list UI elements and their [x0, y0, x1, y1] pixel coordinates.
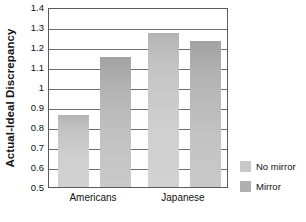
- legend-item: Mirror: [240, 178, 304, 194]
- bar: [148, 33, 179, 187]
- legend-swatch-icon: [240, 181, 251, 192]
- y-axis-tick-label: 0.5: [31, 183, 44, 193]
- y-axis-tick-label: 0.9: [31, 103, 44, 113]
- y-axis-tick-label: 0.7: [31, 143, 44, 153]
- legend-swatch-icon: [240, 161, 251, 172]
- legend-label: No mirror: [256, 161, 296, 172]
- bar: [58, 115, 89, 187]
- x-axis-category-labels: AmericansJapanese: [48, 192, 228, 212]
- x-axis-category-label: Americans: [69, 192, 116, 204]
- legend-label: Mirror: [256, 181, 281, 192]
- bar: [190, 41, 221, 187]
- y-axis-tick-labels: 1.41.31.21.110.90.80.70.60.5: [19, 0, 46, 192]
- y-axis-title: Actual-Ideal Discrepancy: [4, 28, 16, 167]
- y-axis-tick-label: 0.6: [31, 163, 44, 173]
- y-axis-tick-label: 1: [39, 83, 44, 93]
- y-axis-tick-label: 1.4: [31, 3, 44, 13]
- y-axis-tick-label: 1.2: [31, 43, 44, 53]
- bar: [100, 57, 131, 187]
- y-axis-title-container: Actual-Ideal Discrepancy: [0, 0, 20, 196]
- bar-chart-figure: Actual-Ideal Discrepancy 1.41.31.21.110.…: [0, 0, 306, 222]
- gridline: [49, 29, 227, 30]
- legend-item: No mirror: [240, 158, 304, 174]
- plot-area: [48, 8, 228, 188]
- y-axis-tick-label: 0.8: [31, 123, 44, 133]
- x-axis-category-label: Japanese: [161, 192, 204, 204]
- y-axis-tick-label: 1.3: [31, 23, 44, 33]
- legend: No mirrorMirror: [240, 158, 304, 198]
- y-axis-tick-label: 1.1: [31, 63, 44, 73]
